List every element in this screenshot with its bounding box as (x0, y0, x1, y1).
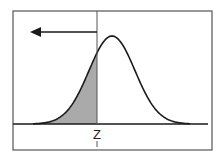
z-label: Z (93, 127, 101, 142)
normal-curve-diagram: Z (0, 0, 220, 160)
bell-curve (33, 36, 190, 124)
left-arrow-icon (30, 27, 41, 37)
